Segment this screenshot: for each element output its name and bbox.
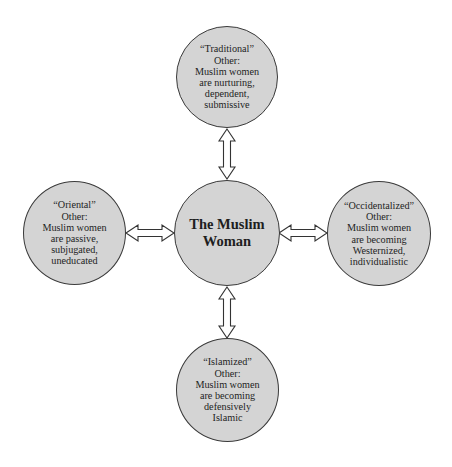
double-arrow-center-top [219, 129, 235, 179]
node-occidentalized-other: “Occidentalized” Other: Muslim women are… [327, 181, 431, 286]
node-line: dependent, [205, 88, 249, 99]
muslim-woman-diagram: The Muslim Woman “Traditional” Other: Mu… [0, 0, 452, 467]
node-line: Other: [61, 211, 87, 222]
node-line: Muslim women [42, 222, 106, 233]
center-node-line-2: Woman [203, 233, 251, 250]
node-line: Muslim women [195, 66, 259, 77]
node-line: Islamic [213, 412, 243, 423]
double-arrow-center-right [279, 225, 327, 241]
node-line: uneducated [51, 255, 97, 266]
node-line: individualistic [350, 256, 408, 267]
node-line: Muslim women [195, 379, 259, 390]
node-line: are nurturing, [199, 77, 254, 88]
center-node-the-muslim-woman: The Muslim Woman [174, 180, 280, 286]
node-line: are becoming [200, 390, 255, 401]
node-line: Other: [214, 55, 240, 66]
node-line: Muslim women [347, 222, 411, 233]
node-line: defensively [204, 401, 251, 412]
double-arrow-center-left [126, 225, 174, 241]
double-arrow-center-bottom [219, 287, 235, 338]
node-oriental-other: “Oriental” Other: Muslim women are passi… [23, 181, 126, 285]
node-line: subjugated, [51, 244, 98, 255]
node-line: submissive [204, 99, 249, 110]
node-line: are becoming [351, 234, 406, 245]
center-node-line-1: The Muslim [189, 216, 264, 233]
node-traditional-other: “Traditional” Other: Muslim women are nu… [176, 26, 278, 128]
node-title: “Traditional” [200, 43, 254, 54]
node-islamized-other: “Islamized” Other: Muslim women are beco… [176, 338, 279, 442]
node-title: “Oriental” [53, 199, 95, 210]
node-title: “Islamized” [203, 356, 252, 367]
node-title: “Occidentalized” [344, 200, 414, 211]
node-line: Other: [214, 368, 240, 379]
node-line: Other: [366, 211, 392, 222]
node-line: Westernized, [353, 245, 406, 256]
node-line: are passive, [51, 233, 99, 244]
